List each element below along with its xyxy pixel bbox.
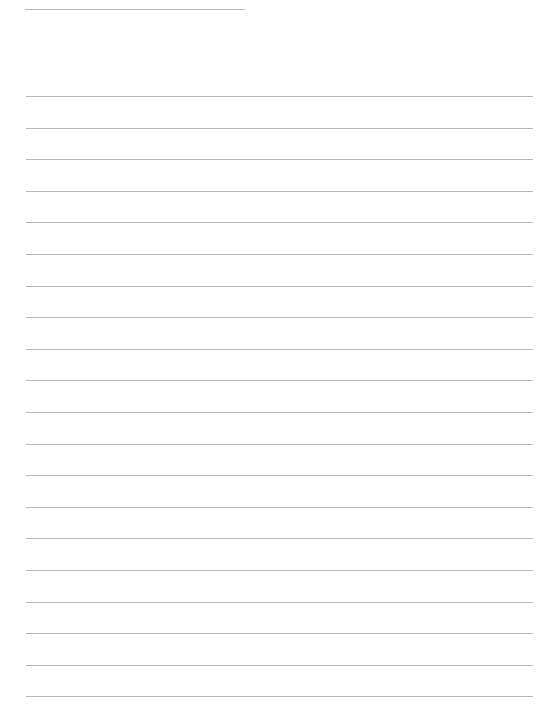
- ruled-line: [26, 317, 533, 318]
- ruled-line: [26, 96, 533, 97]
- ruled-line: [26, 380, 533, 381]
- ruled-line: [26, 665, 533, 666]
- ruled-line: [26, 570, 533, 571]
- ruled-line: [26, 475, 533, 476]
- ruled-line: [26, 633, 533, 634]
- ruled-line: [26, 696, 533, 697]
- ruled-line: [26, 412, 533, 413]
- ruled-line: [26, 444, 533, 445]
- ruled-line: [26, 191, 533, 192]
- header-name-line: [25, 9, 245, 10]
- ruled-line: [26, 538, 533, 539]
- ruled-line: [26, 159, 533, 160]
- ruled-line: [26, 507, 533, 508]
- ruled-line: [26, 286, 533, 287]
- ruled-line: [26, 602, 533, 603]
- ruled-line: [26, 254, 533, 255]
- ruled-line: [26, 222, 533, 223]
- ruled-line: [26, 349, 533, 350]
- lined-paper-sheet: [0, 0, 544, 710]
- ruled-line: [26, 128, 533, 129]
